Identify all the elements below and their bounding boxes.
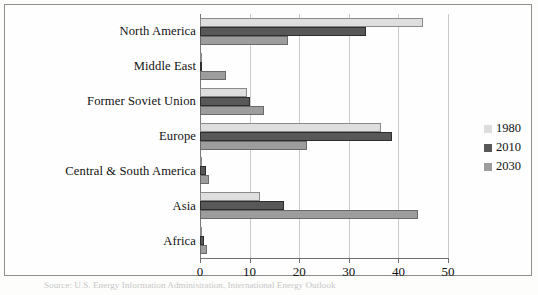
bar-2030[interactable]	[200, 210, 418, 219]
category-label-6: Africa	[6, 233, 196, 248]
bar-2010[interactable]	[200, 97, 250, 106]
bar-1980[interactable]	[200, 192, 260, 201]
x-tick-label-10: 10	[243, 264, 256, 280]
bar-2010[interactable]	[200, 62, 202, 71]
legend-item-2030[interactable]: 2030	[484, 157, 534, 176]
figure-caption: Source: U.S. Energy Information Administ…	[44, 280, 514, 291]
x-tick-50	[448, 258, 449, 263]
bar-2030[interactable]	[200, 245, 207, 254]
legend-item-2010[interactable]: 2010	[484, 138, 534, 157]
bar-group	[200, 157, 448, 184]
x-axis-line	[200, 258, 449, 259]
bar-2030[interactable]	[200, 36, 288, 45]
category-label-0: North America	[6, 24, 196, 39]
bar-1980[interactable]	[200, 18, 423, 27]
plot-area	[200, 14, 448, 258]
legend-swatch-icon	[484, 125, 492, 133]
bar-group	[200, 192, 448, 219]
bar-group	[200, 88, 448, 115]
category-label-4: Central & South America	[6, 163, 196, 178]
legend-label: 1980	[496, 121, 521, 136]
legend-label: 2010	[496, 140, 521, 155]
chart-figure: North AmericaMiddle EastFormer Soviet Un…	[0, 0, 538, 295]
bar-1980[interactable]	[200, 123, 381, 132]
bar-group	[200, 18, 448, 45]
x-tick-20	[299, 258, 300, 263]
bar-2030[interactable]	[200, 106, 264, 115]
legend-item-1980[interactable]: 1980	[484, 119, 534, 138]
category-label-1: Middle East	[6, 59, 196, 74]
gridline-50	[448, 14, 449, 258]
bar-group	[200, 53, 448, 80]
bar-2030[interactable]	[200, 175, 209, 184]
bar-2010[interactable]	[200, 27, 366, 36]
bar-2010[interactable]	[200, 201, 284, 210]
bar-1980[interactable]	[200, 88, 247, 97]
bar-group	[200, 123, 448, 150]
bar-2010[interactable]	[200, 166, 206, 175]
x-tick-label-40: 40	[392, 264, 405, 280]
x-tick-0	[200, 258, 201, 263]
bar-2010[interactable]	[200, 132, 392, 141]
x-tick-10	[250, 258, 251, 263]
category-axis-labels: North AmericaMiddle EastFormer Soviet Un…	[6, 14, 196, 258]
bar-1980[interactable]	[200, 227, 202, 236]
bar-2030[interactable]	[200, 141, 307, 150]
bar-2010[interactable]	[200, 236, 204, 245]
bar-2030[interactable]	[200, 71, 226, 80]
x-tick-40	[398, 258, 399, 263]
x-tick-label-20: 20	[293, 264, 306, 280]
bar-1980[interactable]	[200, 53, 202, 62]
category-label-5: Asia	[6, 198, 196, 213]
legend-swatch-icon	[484, 144, 492, 152]
x-tick-label-0: 0	[197, 264, 204, 280]
bar-group	[200, 227, 448, 254]
legend-swatch-icon	[484, 163, 492, 171]
x-tick-label-30: 30	[342, 264, 355, 280]
x-tick-label-50: 50	[442, 264, 455, 280]
x-tick-30	[349, 258, 350, 263]
chart-legend: 198020102030	[484, 119, 534, 176]
legend-label: 2030	[496, 159, 521, 174]
bar-1980[interactable]	[200, 157, 202, 166]
category-label-3: Europe	[6, 129, 196, 144]
category-label-2: Former Soviet Union	[6, 94, 196, 109]
